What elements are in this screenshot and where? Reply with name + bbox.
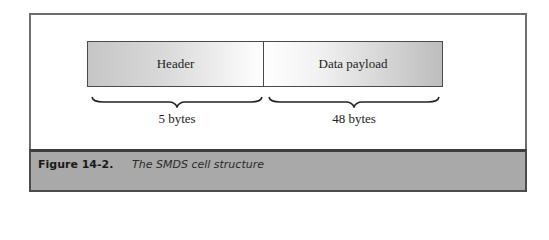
payload-size-label: 48 bytes (268, 111, 440, 127)
figure-title: The SMDS cell structure (132, 158, 264, 171)
figure-number: Figure 14-2. (38, 158, 113, 171)
header-brace-icon (91, 96, 263, 108)
payload-field-label: Data payload (319, 56, 388, 72)
figure-caption: Figure 14-2. The SMDS cell structure (29, 149, 527, 192)
payload-field: Data payload (263, 41, 443, 87)
payload-brace-icon (268, 96, 440, 108)
header-field-label: Header (157, 56, 195, 72)
header-field: Header (87, 41, 264, 87)
header-size-label: 5 bytes (91, 111, 263, 127)
